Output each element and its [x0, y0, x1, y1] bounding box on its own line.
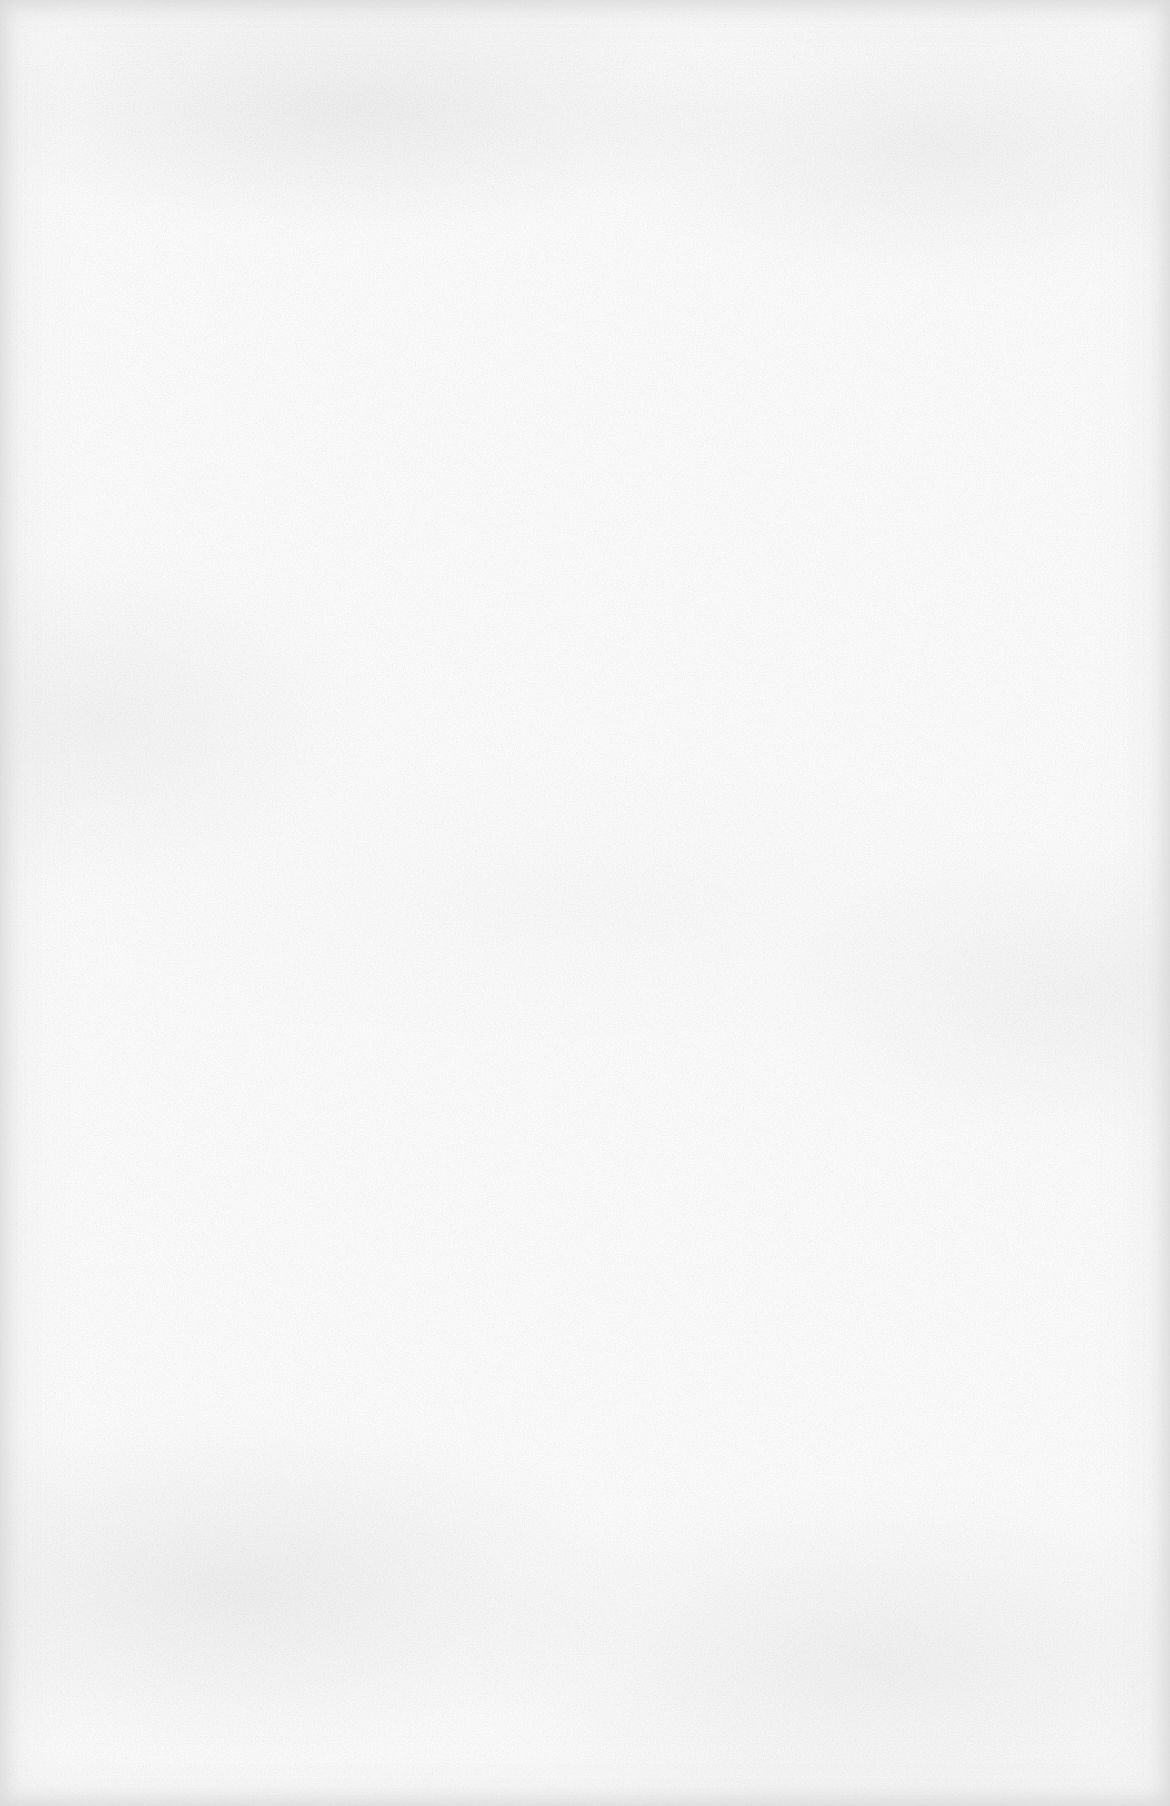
blank-paper-page [0, 0, 1170, 1806]
paper-grain-texture [0, 0, 1170, 1806]
